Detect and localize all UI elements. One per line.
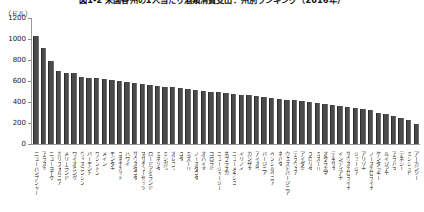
bar-slot — [146, 18, 154, 144]
bar[interactable] — [64, 73, 69, 144]
bar-slot — [245, 18, 253, 144]
x-label-slot: アラスカ — [40, 151, 48, 212]
x-label-slot: ネブラスカ — [222, 151, 230, 212]
x-axis-tick-label: バーモント — [86, 151, 91, 175]
x-axis-tick-label: オハイオ — [201, 151, 206, 170]
bar-slot — [397, 18, 405, 144]
x-label-slot: ユタ — [177, 151, 185, 212]
bar[interactable] — [368, 110, 373, 144]
x-label-slot: フロリダ — [306, 151, 314, 212]
bar-slot — [390, 18, 398, 144]
bar[interactable] — [239, 95, 244, 144]
x-axis-tick-label: フロリダ — [307, 151, 312, 170]
bar[interactable] — [56, 71, 61, 145]
bar[interactable] — [41, 48, 46, 144]
bar[interactable] — [406, 120, 411, 144]
x-axis-tick-label: ワイオミング — [71, 151, 76, 180]
x-axis-tick-label: アーカンソー — [414, 151, 419, 180]
bar[interactable] — [376, 113, 381, 145]
bar[interactable] — [48, 61, 53, 144]
x-label-slot: アイダホ — [298, 151, 306, 212]
x-label-slot: オレゴン — [169, 151, 177, 212]
x-axis-tick-label: ハワイ — [124, 151, 129, 166]
bar[interactable] — [86, 78, 91, 144]
bar[interactable] — [246, 95, 251, 144]
bar[interactable] — [360, 109, 365, 144]
bar-series — [32, 18, 420, 144]
bar-slot — [55, 18, 63, 144]
bar[interactable] — [216, 92, 221, 144]
bar[interactable] — [124, 82, 129, 144]
bar[interactable] — [79, 77, 84, 144]
bar[interactable] — [193, 90, 198, 144]
x-axis-tick-label: メイン — [102, 151, 107, 166]
bar[interactable] — [315, 103, 320, 144]
bar-slot — [123, 18, 131, 144]
bar-slot — [139, 18, 147, 144]
x-axis-category-labels: ニューハンプシャーアラスカニューヨークカリフォルニアメリーランドワイオミングウィ… — [32, 151, 420, 212]
bar[interactable] — [414, 124, 419, 144]
bar-slot — [344, 18, 352, 144]
bar[interactable] — [223, 93, 228, 144]
bar[interactable] — [132, 83, 137, 144]
bar[interactable] — [71, 73, 76, 144]
bar[interactable] — [299, 101, 304, 144]
y-tick-label: 600 — [13, 78, 26, 85]
x-axis-tick-label: ミシガン — [162, 151, 167, 170]
bar-slot — [131, 18, 139, 144]
bar[interactable] — [398, 118, 403, 144]
bar[interactable] — [102, 79, 107, 144]
x-axis-tick-label: ロードアイランド — [147, 151, 152, 190]
x-label-slot: オクラホマ — [321, 151, 329, 212]
bar-slot — [283, 18, 291, 144]
bar-slot — [329, 18, 337, 144]
bar[interactable] — [337, 106, 342, 144]
bar-slot — [237, 18, 245, 144]
bar[interactable] — [140, 84, 145, 144]
bar[interactable] — [109, 80, 114, 144]
x-axis-tick-label: オレゴン — [170, 151, 175, 170]
bar[interactable] — [345, 107, 350, 144]
bar[interactable] — [330, 105, 335, 144]
bar[interactable] — [261, 97, 266, 144]
bar[interactable] — [162, 87, 167, 144]
bar[interactable] — [117, 81, 122, 144]
bar[interactable] — [178, 88, 183, 144]
bar-slot — [336, 18, 344, 144]
bar[interactable] — [231, 94, 236, 144]
x-axis-tick-label: ウィスコンシン — [79, 151, 84, 185]
bar[interactable] — [383, 114, 388, 144]
bar[interactable] — [147, 85, 152, 144]
x-label-slot: マサチューセッツ — [139, 151, 147, 212]
bar[interactable] — [208, 92, 213, 145]
bar[interactable] — [284, 100, 289, 144]
y-tick-label: 200 — [13, 120, 26, 127]
bar[interactable] — [307, 102, 312, 144]
x-axis-tick-label: ケンタッキー — [376, 151, 381, 180]
y-tick-label: 400 — [13, 99, 26, 106]
y-tick-label: 1200 — [8, 15, 26, 22]
x-axis-tick-label: アイダホ — [299, 151, 304, 170]
x-axis-tick-label: ミズーリ — [185, 151, 190, 170]
x-label-slot: メリーランド — [62, 151, 70, 212]
bar[interactable] — [185, 89, 190, 144]
bar[interactable] — [269, 98, 274, 144]
bar[interactable] — [391, 116, 396, 144]
bar-slot — [291, 18, 299, 144]
x-label-slot: イリノイ — [237, 151, 245, 212]
x-axis-tick-label: インディアナ — [337, 151, 342, 180]
bar[interactable] — [155, 86, 160, 144]
bar[interactable] — [94, 78, 99, 144]
x-label-slot: コネチカット — [116, 151, 124, 212]
bar[interactable] — [170, 87, 175, 144]
bar[interactable] — [353, 108, 358, 144]
bar[interactable] — [292, 100, 297, 144]
bar[interactable] — [322, 104, 327, 144]
bar[interactable] — [33, 36, 38, 144]
bar[interactable] — [277, 99, 282, 144]
x-label-slot: アリゾナ — [359, 151, 367, 212]
x-label-slot: ペンシルベニア — [268, 151, 276, 212]
bar[interactable] — [201, 91, 206, 144]
bar-slot — [192, 18, 200, 144]
bar[interactable] — [254, 96, 259, 144]
